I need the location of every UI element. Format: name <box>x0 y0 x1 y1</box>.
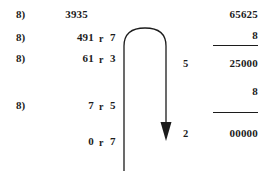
right-rule-1 <box>213 45 258 46</box>
right-row-4-value: 8 <box>196 86 258 97</box>
left-row-2-remainder-value: 7 <box>110 32 116 43</box>
left-row-3-remainder-value: 3 <box>110 53 116 64</box>
right-row-3-value: 25000 <box>196 58 258 69</box>
left-row-2-remainder-symbol: r <box>99 33 103 44</box>
left-row-1-quotient: 3935 <box>22 9 88 20</box>
worksheet-page: 8) 3935 8) 491 r 7 8) 61 r 3 8) 7 r 5 0 … <box>0 0 272 174</box>
right-row-5-side-digit: 2 <box>183 128 188 139</box>
right-rule-2 <box>213 112 258 113</box>
left-row-5-remainder-symbol: r <box>99 137 103 148</box>
right-row-5-value: 00000 <box>196 128 258 139</box>
u-turn-arrow-path <box>124 28 166 171</box>
left-row-4-remainder-symbol: r <box>99 101 103 112</box>
u-turn-arrow-head <box>161 122 172 141</box>
left-row-3-remainder-symbol: r <box>99 54 103 65</box>
right-row-3-side-digit: 5 <box>183 58 188 69</box>
left-row-5-quotient: 0 <box>22 136 94 147</box>
left-row-2-quotient: 491 <box>22 32 94 43</box>
left-row-3-quotient: 61 <box>22 53 94 64</box>
right-row-1-value: 65625 <box>196 9 258 20</box>
right-row-2-value: 8 <box>196 30 258 41</box>
left-row-4-quotient: 7 <box>22 100 94 111</box>
left-row-5-remainder-value: 7 <box>110 136 116 147</box>
left-row-4-remainder-value: 5 <box>110 100 116 111</box>
